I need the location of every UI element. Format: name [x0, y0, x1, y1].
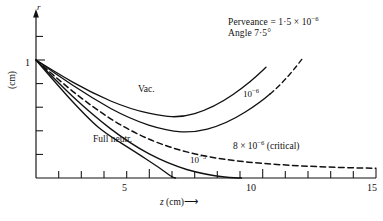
curve-label-1e-5-mantissa: 10 [190, 155, 199, 165]
curve-label-full-neutr: Full neutr. [93, 134, 132, 145]
curve-label-vac: Vac. [138, 84, 155, 95]
x-axis-tick-label-15: 15 [367, 182, 377, 193]
x-axis-tick-label-5: 5 [122, 182, 127, 193]
x-axis-label: z (cm)⟶ [160, 197, 198, 208]
curve-label-1e-5-exponent: −5 [199, 153, 206, 160]
curve-label-1e-5: 10−5 [190, 155, 206, 165]
critical-suffix: (critical) [264, 141, 299, 151]
chart-figure: Perveance = 1·5 × 10−6 Angle 7·5° Vac. F… [0, 0, 383, 221]
x-axis-unit: (cm) [166, 197, 184, 207]
x-axis-symbol: z [160, 197, 164, 207]
beam-envelope-plot [0, 0, 383, 221]
curve-label-1e-6: 10−6 [243, 89, 259, 99]
y-axis-ticks [36, 36, 45, 154]
curve-label-1e-6-mantissa: 10 [243, 89, 252, 99]
parameter-annotation: Perveance = 1·5 × 10−6 Angle 7·5° [228, 17, 319, 38]
perveance-text: Perveance = 1·5 × 10 [228, 17, 311, 27]
y-axis-unit-label: (cm) [7, 71, 18, 89]
y-axis-symbol: r [37, 2, 41, 12]
curve-perveance-1e-5 [36, 60, 242, 178]
curve-perveance-1e-6-solid [36, 60, 270, 132]
x-axis-tick-label-10: 10 [246, 182, 256, 193]
x-axis-arrow: ⟶ [184, 197, 198, 207]
y-axis-tick-label-1: 1 [25, 57, 30, 68]
perveance-line: Perveance = 1·5 × 10−6 [228, 17, 319, 28]
angle-line: Angle 7·5° [228, 28, 319, 39]
curve-perveance-1e-6-dashed [270, 59, 302, 94]
curve-label-critical: 8 × 10−6 (critical) [233, 141, 299, 152]
perveance-exponent: −6 [311, 15, 318, 22]
curve-label-1e-6-exponent: −6 [252, 87, 259, 94]
critical-prefix: 8 × 10 [233, 141, 257, 151]
